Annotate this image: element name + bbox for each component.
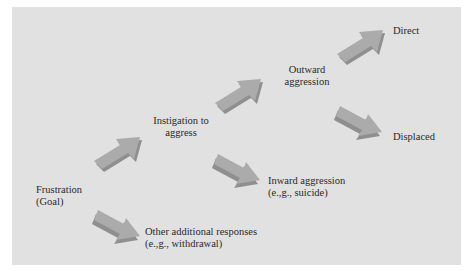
arrow-down-right-icon [92, 204, 144, 246]
node-other-line1: Other additional responses [145, 226, 257, 238]
node-instigation: Instigation to aggress [146, 115, 216, 139]
node-outward-line1: Outward [275, 64, 339, 76]
node-frustration: Frustration (Goal) [36, 184, 82, 208]
node-displaced-line1: Displaced [393, 131, 435, 143]
node-frustration-line1: Frustration [36, 184, 82, 196]
node-direct: Direct [393, 25, 419, 37]
arrow-up-right-icon [92, 134, 144, 176]
node-frustration-line2: (Goal) [36, 196, 82, 208]
node-direct-line1: Direct [393, 25, 419, 37]
arrow-up-right-icon [335, 27, 387, 69]
node-inward-line2: (e.,g., suicide) [268, 187, 345, 199]
arrow-down-right-icon [334, 100, 386, 142]
node-outward-line2: aggression [275, 76, 339, 88]
node-displaced: Displaced [393, 131, 435, 143]
node-outward-aggression: Outward aggression [275, 64, 339, 88]
arrow-up-right-icon [213, 76, 265, 118]
node-inward-line1: Inward aggression [268, 175, 345, 187]
node-inward-aggression: Inward aggression (e.,g., suicide) [268, 175, 345, 199]
node-other-line2: (e.,g., withdrawal) [145, 238, 257, 250]
node-instigation-line1: Instigation to [146, 115, 216, 127]
node-other-responses: Other additional responses (e.,g., withd… [145, 226, 257, 250]
node-instigation-line2: aggress [146, 127, 216, 139]
arrow-down-right-icon [212, 148, 264, 190]
